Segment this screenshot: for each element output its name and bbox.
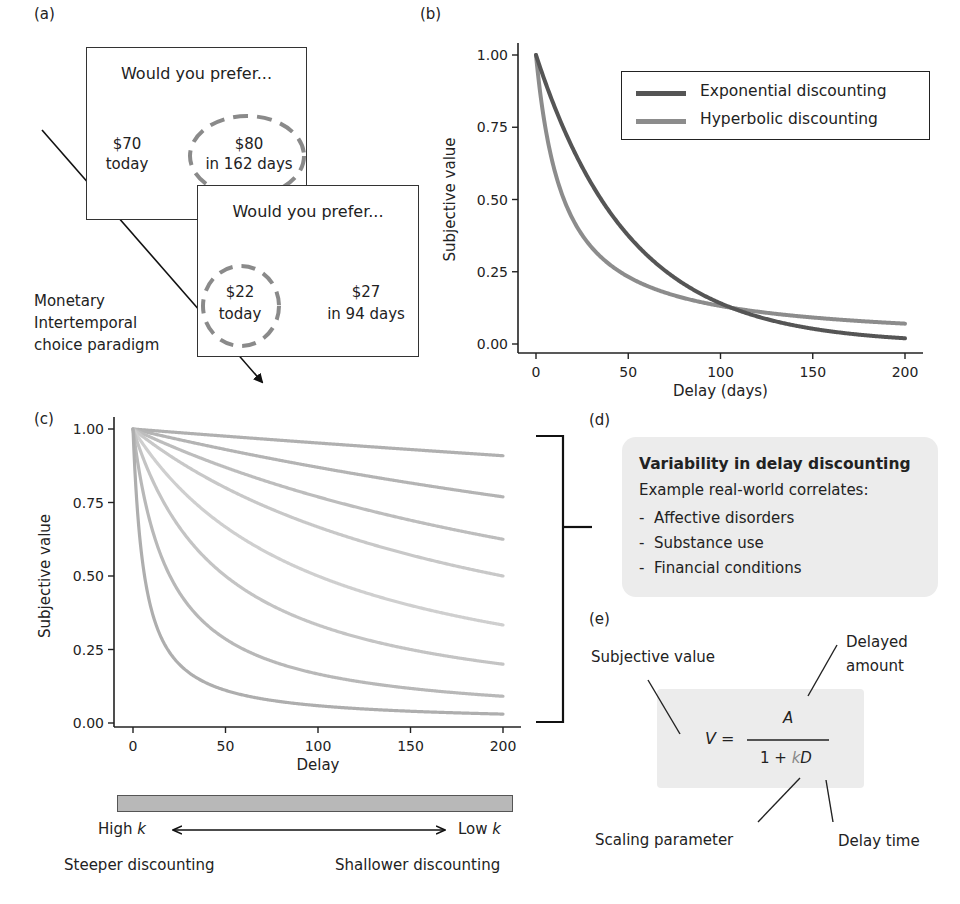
variability-title: Variability in delay discounting: [639, 455, 911, 473]
list-item: - Financial conditions: [639, 556, 802, 581]
legend-swatch-exponential: [636, 91, 686, 96]
chart-c-hyperbolic-family: 0.000.250.500.751.00050100150200DelaySub…: [0, 400, 560, 790]
x-tick-label: 150: [799, 364, 826, 380]
x-axis-label: Delay (days): [673, 382, 768, 400]
x-tick-label: 50: [619, 364, 637, 380]
y-tick-label: 1.00: [477, 47, 508, 63]
x-tick-label: 200: [490, 738, 517, 754]
series-curve: [133, 429, 503, 664]
low-k-label: Low k: [458, 820, 501, 838]
x-tick-label: 0: [129, 738, 138, 754]
x-tick-label: 50: [217, 738, 235, 754]
chart-b-exponential-vs-hyperbolic: 0.000.250.500.751.00050100150200Delay (d…: [0, 0, 960, 420]
x-axis-label: Delay: [296, 756, 339, 774]
x-tick-label: 0: [532, 364, 541, 380]
formula-annotation-lines: [540, 600, 960, 900]
correlates-subtitle: Example real-world correlates:: [639, 481, 868, 499]
list-item: - Affective disorders: [639, 506, 802, 531]
x-tick-label: 100: [707, 364, 734, 380]
y-tick-label: 0.50: [477, 192, 508, 208]
y-tick-label: 0.75: [73, 495, 104, 511]
formula-lhs: V =: [705, 729, 734, 748]
series-curve: [133, 429, 503, 539]
k-gradient-bar: [117, 795, 513, 812]
series-curve: [133, 429, 503, 497]
y-axis-label: Subjective value: [441, 137, 459, 261]
y-tick-label: 0.25: [477, 264, 508, 280]
y-tick-label: 0.75: [477, 119, 508, 135]
formula-numerator: A: [783, 709, 793, 727]
panel-d-label: (d): [589, 411, 610, 429]
y-tick-label: 0.00: [73, 715, 104, 731]
double-headed-arrow-icon: [170, 820, 450, 840]
x-tick-label: 150: [397, 738, 424, 754]
legend-label-hyperbolic: Hyperbolic discounting: [700, 110, 878, 128]
chart-b-legend: Exponential discounting Hyperbolic disco…: [621, 71, 930, 140]
series-curve: [133, 429, 503, 714]
formula-denominator: 1 + kD: [760, 749, 812, 767]
high-k-label: High k: [98, 820, 146, 838]
y-tick-label: 0.00: [477, 336, 508, 352]
list-item: - Substance use: [639, 531, 802, 556]
legend-label-exponential: Exponential discounting: [700, 82, 887, 100]
shallower-discounting-label: Shallower discounting: [335, 856, 500, 874]
correlates-list: - Affective disorders - Substance use - …: [639, 506, 802, 581]
y-tick-label: 1.00: [73, 421, 104, 437]
y-tick-label: 0.25: [73, 642, 104, 658]
steeper-discounting-label: Steeper discounting: [64, 856, 215, 874]
y-tick-label: 0.50: [73, 568, 104, 584]
y-axis-label: Subjective value: [36, 514, 54, 638]
legend-swatch-hyperbolic: [636, 119, 686, 124]
panel-d-box: Variability in delay discounting Example…: [622, 437, 938, 597]
x-tick-label: 200: [892, 364, 919, 380]
x-tick-label: 100: [305, 738, 332, 754]
